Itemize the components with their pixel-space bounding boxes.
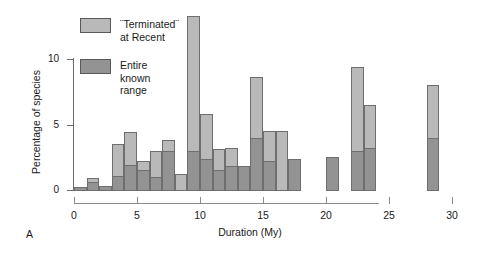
- bar-entire-known-range: [326, 157, 339, 191]
- bar-entire-known-range: [288, 159, 301, 191]
- bar-terminated-at-recent: [427, 85, 440, 138]
- bar-entire-known-range: [225, 166, 238, 191]
- panel-label: A: [26, 228, 33, 240]
- legend-label-terminated: ¨Terminated¨ at Recent: [120, 18, 179, 43]
- x-axis-line: [74, 203, 379, 204]
- x-axis-tick: [200, 197, 201, 204]
- x-axis-tick-label: 25: [374, 209, 404, 221]
- bar-entire-known-range: [213, 170, 226, 191]
- bar-entire-known-range: [124, 165, 137, 191]
- x-axis-title: Duration (My): [160, 226, 340, 238]
- bar-terminated-at-recent: [175, 174, 188, 191]
- bar-terminated-at-recent: [150, 151, 163, 178]
- x-axis-tick-label: 20: [311, 209, 341, 221]
- legend-item-terminated: ¨Terminated¨ at Recent: [80, 18, 179, 43]
- x-axis-tick: [137, 197, 138, 204]
- y-axis-tick: [67, 125, 73, 126]
- bar-entire-known-range: [137, 170, 150, 191]
- x-axis-tick-label: 10: [185, 209, 215, 221]
- bar-terminated-at-recent: [162, 140, 175, 151]
- bar-entire-known-range: [250, 138, 263, 191]
- x-axis-tick: [74, 197, 75, 204]
- bar-terminated-at-recent: [187, 16, 200, 152]
- bar-terminated-at-recent: [213, 149, 226, 171]
- bar-entire-known-range: [87, 182, 100, 191]
- bar-terminated-at-recent: [276, 131, 289, 191]
- y-axis-line: [73, 58, 74, 191]
- bar-entire-known-range: [74, 187, 87, 191]
- x-axis-tick-label: 0: [59, 209, 89, 221]
- y-axis-tick: [67, 190, 73, 191]
- bar-terminated-at-recent: [250, 77, 263, 138]
- legend-swatch-terminated-icon: [80, 18, 111, 33]
- x-axis-tick-label: 15: [248, 209, 278, 221]
- bar-terminated-at-recent: [263, 131, 276, 162]
- bar-terminated-at-recent: [137, 161, 150, 171]
- bar-entire-known-range: [150, 177, 163, 191]
- figure-panel-a: 0510 051015202530 Percentage of species …: [0, 0, 489, 254]
- x-axis-tick: [326, 197, 327, 204]
- bar-entire-known-range: [200, 159, 213, 191]
- y-axis-tick: [67, 59, 73, 60]
- x-axis-tick: [263, 197, 264, 204]
- bar-entire-known-range: [263, 161, 276, 191]
- bar-entire-known-range: [364, 148, 377, 191]
- legend-label-entire-range: Entire known range: [120, 59, 150, 97]
- bar-entire-known-range: [351, 151, 364, 191]
- bar-terminated-at-recent: [87, 178, 100, 183]
- bar-terminated-at-recent: [225, 148, 238, 167]
- x-axis-tick: [452, 197, 453, 204]
- bar-entire-known-range: [238, 166, 251, 191]
- bar-terminated-at-recent: [124, 132, 137, 166]
- legend-swatch-entire-range-icon: [80, 59, 111, 74]
- bar-entire-known-range: [99, 186, 112, 191]
- bar-entire-known-range: [112, 176, 125, 191]
- x-axis-tick: [389, 197, 390, 204]
- bar-terminated-at-recent: [200, 114, 213, 160]
- y-axis-title: Percentage of species: [30, 42, 42, 202]
- bar-terminated-at-recent: [364, 105, 377, 149]
- bar-entire-known-range: [187, 151, 200, 191]
- bar-entire-known-range: [162, 151, 175, 191]
- legend-item-entire-range: Entire known range: [80, 59, 150, 97]
- bar-terminated-at-recent: [112, 144, 125, 176]
- bar-entire-known-range: [427, 138, 440, 191]
- x-axis-tick-label: 30: [437, 209, 467, 221]
- bar-terminated-at-recent: [351, 67, 364, 152]
- x-axis-tick-label: 5: [122, 209, 152, 221]
